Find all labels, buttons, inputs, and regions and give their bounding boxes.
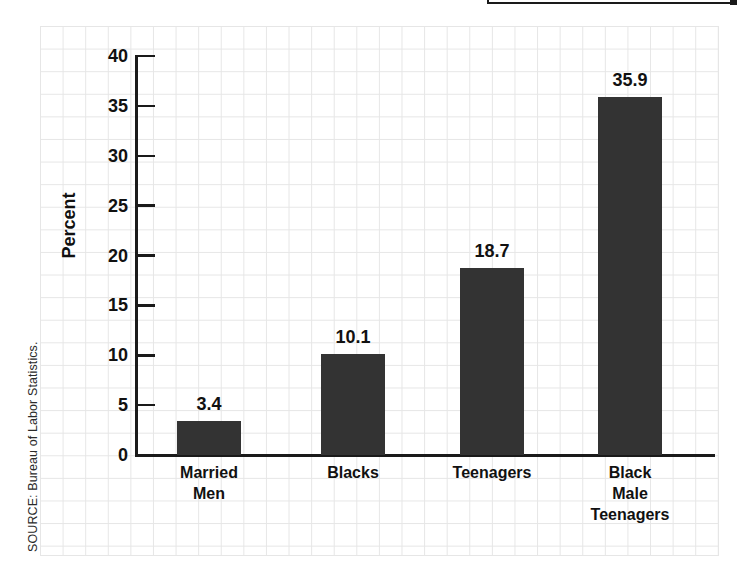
y-axis-tick-label: 20 [88,245,128,266]
y-axis-tick [137,105,155,108]
y-axis-tick-label: 0 [88,445,128,466]
bar-value-label: 35.9 [612,70,647,91]
y-axis-tick [137,204,155,207]
y-axis-tick [137,304,155,307]
y-axis-tick [137,404,155,407]
y-axis-tick-label: 15 [88,295,128,316]
y-axis-title: Percent [59,171,80,281]
y-axis-tick-label: 30 [88,145,128,166]
bar[interactable] [321,354,385,455]
x-axis-category-label: Black Male Teenagers [591,462,670,525]
bar-chart: Percent 0510152025303540 3.4Married Men1… [0,0,745,564]
y-axis-tick-label: 10 [88,345,128,366]
bar[interactable] [177,421,241,455]
y-axis-tick [137,55,155,58]
bar-value-label: 3.4 [196,394,221,415]
bar[interactable] [598,97,662,455]
y-axis-tick-label: 25 [88,195,128,216]
x-axis-category-label: Married Men [180,462,238,504]
y-axis-tick-label: 5 [88,395,128,416]
x-axis-category-label: Teenagers [453,462,532,483]
bar[interactable] [460,268,524,455]
bar-value-label: 10.1 [335,327,370,348]
bar-value-label: 18.7 [474,241,509,262]
y-axis-tick-label: 40 [88,46,128,67]
y-axis-tick [137,354,155,357]
x-axis-category-label: Blacks [327,462,379,483]
y-axis-tick [137,254,155,257]
y-axis-tick [137,155,155,158]
y-axis-tick-label: 35 [88,95,128,116]
